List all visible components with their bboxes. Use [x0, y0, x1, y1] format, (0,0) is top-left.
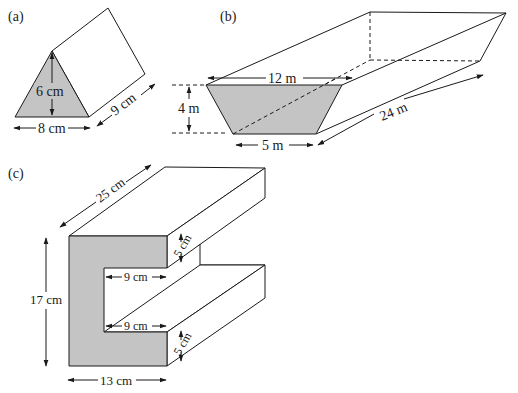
diagram-canvas: (a) 6 cm 8 cm 9 cm (b) 12	[0, 0, 518, 393]
gap-bottom-label: 9 cm	[124, 319, 148, 333]
figure-a-label: (a)	[8, 9, 24, 25]
gap-top-label: 9 cm	[124, 270, 148, 284]
hidden-edge	[370, 60, 480, 61]
figure-b-trapezoidal-prism: (b) 12 m 4 m 5 m 24 m	[172, 9, 506, 153]
length-arrow-upper-icon	[404, 75, 483, 99]
bottom-width-label: 5 m	[262, 138, 284, 153]
height-label: 6 cm	[36, 84, 64, 99]
figure-b-label: (b)	[220, 9, 237, 25]
depth-label: 4 m	[178, 101, 200, 116]
width-label: 13 cm	[100, 373, 132, 388]
trough-front-trapezoid	[206, 85, 342, 134]
figure-a-triangular-prism: (a) 6 cm 8 cm 9 cm	[8, 8, 155, 136]
length-arrow-upper-icon	[141, 84, 155, 95]
length-label: 24 m	[378, 99, 410, 124]
top-width-label: 12 m	[268, 71, 297, 86]
height-label: 17 cm	[30, 292, 62, 307]
figure-c-label: (c)	[8, 166, 24, 182]
figure-c-c-shaped-prism: (c) 25 cm 17 cm 13 cm 9 cm 9 cm	[8, 165, 265, 388]
length-arrow-lower-icon	[97, 115, 112, 126]
base-label: 8 cm	[38, 121, 66, 136]
